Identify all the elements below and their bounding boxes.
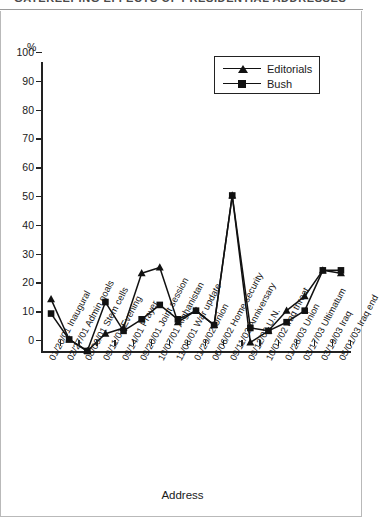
chart-figure: % 0102030405060708090100 Editorials Bush… [0,11,362,517]
x-axis-title: Address [1,489,364,501]
x-axis-tick [205,340,206,346]
figure-title-strip: GATEKEEPING EFFECTS OF PRESIDENTIAL ADDR… [0,0,363,9]
x-axis-tick [78,340,79,346]
title-divider [0,9,363,10]
y-axis-tick [36,311,42,312]
y-axis-tick [36,52,42,53]
x-axis-tick [133,340,134,346]
x-axis-tick [42,340,43,346]
y-axis-tick [36,138,42,139]
x-axis-tick [223,340,224,346]
y-axis-tick [36,196,42,197]
x-axis-tick [96,340,97,346]
x-axis-tick [60,340,61,346]
y-axis-tick [36,254,42,255]
figure-title: GATEKEEPING EFFECTS OF PRESIDENTIAL ADDR… [14,0,346,4]
y-axis-tick [36,81,42,82]
x-axis-tick [187,340,188,346]
x-axis-tick [169,340,170,346]
x-axis-tick [314,340,315,346]
x-axis-tick [259,340,260,346]
x-axis-tick [114,340,115,346]
x-axis-tick [332,340,333,346]
y-axis-tick [36,167,42,168]
x-axis-tick [296,340,297,346]
x-axis-tick [278,340,279,346]
y-axis-tick [36,110,42,111]
x-axis-tick [241,340,242,346]
y-axis-tick [36,225,42,226]
y-axis-tick [36,282,42,283]
x-axis-tick [350,340,351,346]
x-axis-tick [151,340,152,346]
x-axis-category-labels: 01/20/01 Inaugural02/27/01 Admin goals08… [1,11,364,518]
